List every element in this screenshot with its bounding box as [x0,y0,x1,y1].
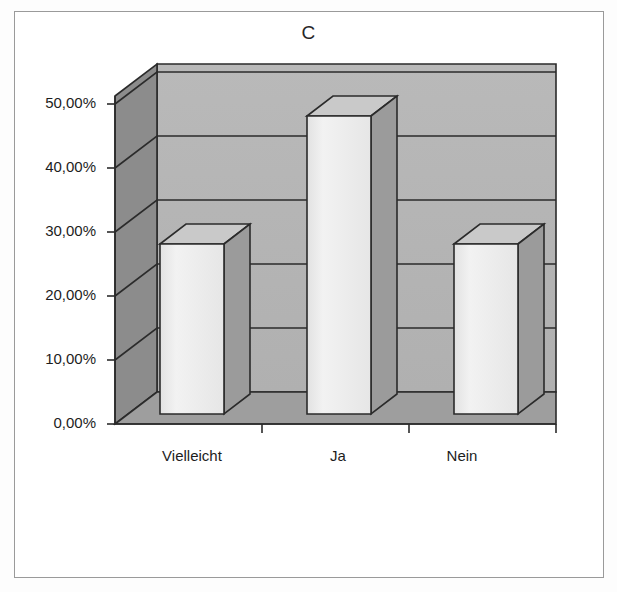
x-tick-label-vielleicht: Vielleicht [162,447,222,464]
x-tick-label-ja: Ja [330,447,346,464]
scanned-page-background: C [0,0,617,592]
x-tick-label-nein: Nein [447,447,478,464]
x-axis-labels: Vielleicht Ja Nein [0,0,617,592]
